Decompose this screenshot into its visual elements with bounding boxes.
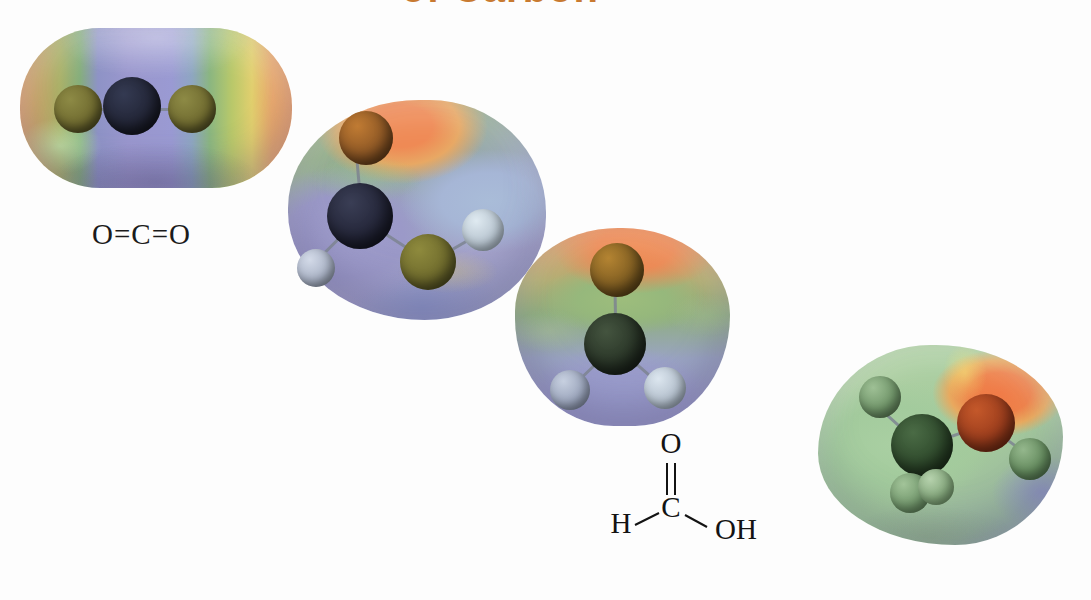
electrostatic-potential-surface-co2 [20, 28, 292, 188]
atom-oxygen [957, 394, 1015, 452]
molecule-methanol: CH3OH [818, 345, 1068, 550]
atom-hydrogen-right [462, 209, 504, 251]
molecule-formic-acid: O C H OH [288, 100, 553, 325]
formula-atom-c: C [661, 491, 680, 523]
atom-carbon-center [584, 313, 646, 375]
bond-line-oh-right [685, 515, 707, 527]
structural-formula-formic-acid: O C H OH [603, 425, 773, 530]
formula-group-oh: OH [715, 513, 757, 545]
atom-hydrogen-left [297, 249, 335, 287]
formula-atom-h-left: H [611, 507, 632, 539]
atom-carbon-center [327, 183, 393, 249]
atom-hydrogen-right [1009, 438, 1051, 480]
atom-hydrogen-left [550, 370, 590, 410]
atom-oxygen-left [54, 85, 102, 133]
page-title-remnant: of Carbon [290, 0, 710, 10]
atom-oxygen-top [590, 243, 644, 297]
atom-hydrogen-right [644, 367, 686, 409]
atom-carbon-center [891, 414, 953, 476]
atom-oxygen-right [400, 234, 456, 290]
label-carbon-dioxide: O=C=O [92, 218, 191, 251]
atom-hydrogen-upper-left [859, 376, 901, 418]
atom-carbon-center [103, 77, 161, 135]
molecule-carbon-dioxide: O=C=O [20, 28, 295, 193]
atom-oxygen-top [339, 111, 393, 165]
figure-root: of Carbon O=C=O O [0, 0, 1091, 600]
atom-oxygen-right [168, 85, 216, 133]
atom-hydrogen-lower-b [918, 469, 954, 505]
molecule-formaldehyde: O C H H [515, 228, 740, 433]
bond-line-h-left [635, 513, 659, 525]
